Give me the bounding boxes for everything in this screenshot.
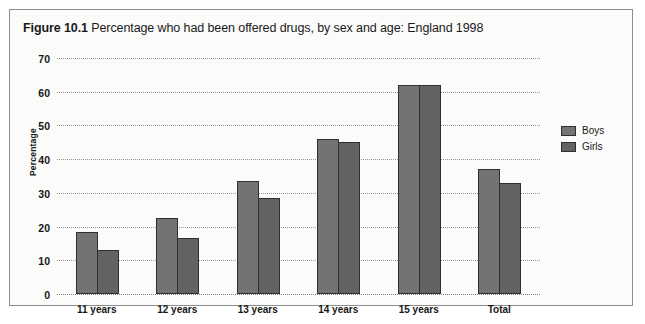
bar-group: Total [478, 58, 521, 294]
bar-group: 12 years [156, 58, 199, 294]
bars-layer: 11 years12 years13 years14 years15 years… [57, 58, 540, 294]
bar-group: 11 years [76, 58, 119, 294]
bar-girls [97, 250, 119, 294]
y-tick-label: 30 [38, 188, 50, 200]
y-tick-label: 20 [38, 222, 50, 234]
x-tick-label: 13 years [215, 304, 301, 315]
y-tick-label: 70 [38, 53, 50, 65]
x-tick-label: 11 years [54, 304, 140, 315]
legend-swatch-icon [561, 126, 576, 136]
bar-boys [478, 169, 500, 294]
gridline-0: 0 [57, 294, 540, 295]
legend-label: Boys [582, 125, 604, 136]
figure-title: Figure 10.1 Percentage who had been offe… [23, 21, 483, 35]
bar-group: 13 years [237, 58, 280, 294]
bar-boys [317, 139, 339, 294]
chart-legend: BoysGirls [561, 124, 604, 156]
x-tick-label: 14 years [295, 304, 381, 315]
bar-girls [338, 142, 360, 294]
figure-title-text: Percentage who had been offered drugs, b… [91, 21, 483, 35]
legend-item-boys: Boys [561, 124, 604, 137]
x-tick-label: 12 years [134, 304, 220, 315]
plot-area: 010203040506070 11 years12 years13 years… [57, 58, 540, 294]
y-tick-label: 10 [38, 255, 50, 267]
bar-boys [398, 85, 420, 294]
figure-frame: Figure 10.1 Percentage who had been offe… [9, 9, 633, 306]
y-tick-label: 60 [38, 87, 50, 99]
bar-girls [419, 85, 441, 294]
y-tick-label: 0 [44, 289, 50, 301]
bar-group: 14 years [317, 58, 360, 294]
legend-label: Girls [582, 141, 603, 152]
figure-number: Figure 10.1 [23, 21, 88, 35]
y-tick-label: 50 [38, 120, 50, 132]
x-tick-label: Total [456, 304, 542, 315]
bar-girls [177, 238, 199, 294]
bar-boys [76, 232, 98, 294]
bar-boys [156, 218, 178, 294]
x-tick-label: 15 years [376, 304, 462, 315]
bar-group: 15 years [398, 58, 441, 294]
y-tick-label: 40 [38, 154, 50, 166]
legend-item-girls: Girls [561, 140, 604, 153]
bar-boys [237, 181, 259, 294]
legend-swatch-icon [561, 142, 576, 152]
y-axis-title: Percentage [28, 128, 38, 176]
bar-girls [499, 183, 521, 294]
bar-girls [258, 198, 280, 294]
